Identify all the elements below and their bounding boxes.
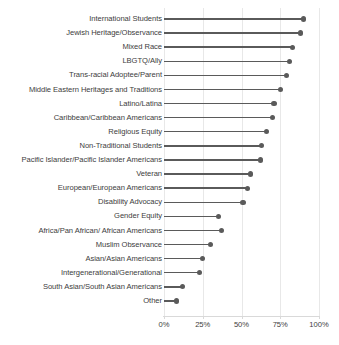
lollipop-marker <box>219 228 224 233</box>
category-label: Pacific Islander/Pacific Islander Americ… <box>21 153 162 167</box>
lollipop-stem <box>164 18 304 19</box>
lollipop-marker <box>271 101 276 106</box>
x-tick-mark <box>280 316 281 319</box>
lollipop-marker <box>174 298 179 303</box>
lollipop-stem <box>164 230 221 231</box>
lollipop-marker <box>284 73 289 78</box>
lollipop-marker <box>248 171 253 176</box>
chart-row: Intergenerational/Generational <box>0 266 339 280</box>
category-label: Gender Equity <box>114 209 162 223</box>
lollipop-marker <box>301 16 306 21</box>
chart-row: LBGTQ/Ally <box>0 54 339 68</box>
chart-row: Trans-racial Adoptee/Parent <box>0 68 339 82</box>
category-label: Veteran <box>136 167 162 181</box>
lollipop-stem <box>164 61 290 62</box>
category-label: Caribbean/Caribbean Americans <box>54 111 162 125</box>
category-label: Disability Advocacy <box>98 195 162 209</box>
x-tick-mark <box>164 316 165 319</box>
lollipop-stem <box>164 103 274 104</box>
lollipop-marker <box>258 157 263 162</box>
chart-row: International Students <box>0 12 339 26</box>
lollipop-marker <box>245 186 250 191</box>
lollipop-stem <box>164 244 211 245</box>
lollipop-stem <box>164 145 262 146</box>
x-tick-mark <box>242 316 243 319</box>
chart-row: Non-Traditional Students <box>0 139 339 153</box>
lollipop-stem <box>164 117 273 118</box>
category-label: Jewish Heritage/Observance <box>66 26 162 40</box>
lollipop-marker <box>264 129 269 134</box>
chart-row: Middle Eastern Heritages and Traditions <box>0 83 339 97</box>
lollipop-stem <box>164 89 280 90</box>
chart-row: European/European Americans <box>0 181 339 195</box>
x-tick-label: 0% <box>159 320 170 329</box>
category-label: European/European Americans <box>58 181 162 195</box>
lollipop-stem <box>164 202 243 203</box>
lollipop-marker <box>208 242 213 247</box>
plot-area: International StudentsJewish Heritage/Ob… <box>0 0 339 345</box>
x-tick-label: 25% <box>195 320 210 329</box>
category-label: Trans-racial Adoptee/Parent <box>69 68 162 82</box>
lollipop-stem <box>164 131 266 132</box>
chart-row: Religious Equity <box>0 125 339 139</box>
lollipop-stem <box>164 187 248 188</box>
x-tick-mark <box>319 316 320 319</box>
category-label: Muslim Observance <box>96 238 162 252</box>
chart-row: South Asian/South Asian Americans <box>0 280 339 294</box>
lollipop-marker <box>180 284 185 289</box>
x-tick-label: 50% <box>234 320 249 329</box>
lollipop-marker <box>270 115 275 120</box>
chart-row: Other <box>0 294 339 308</box>
category-label: Religious Equity <box>108 125 162 139</box>
lollipop-stem <box>164 272 200 273</box>
chart-row: Asian/Asian Americans <box>0 252 339 266</box>
lollipop-stem <box>164 159 260 160</box>
lollipop-marker <box>287 59 292 64</box>
chart-row: Latino/Latina <box>0 97 339 111</box>
category-label: Non-Traditional Students <box>79 139 162 153</box>
x-tick-label: 100% <box>309 320 328 329</box>
category-label: South Asian/South Asian Americans <box>43 280 162 294</box>
lollipop-marker <box>298 30 303 35</box>
category-label: Mixed Race <box>122 40 162 54</box>
category-label: LBGTQ/Ally <box>122 54 162 68</box>
category-label: Middle Eastern Heritages and Traditions <box>29 83 162 97</box>
category-label: Africa/Pan African/ African Americans <box>38 224 162 238</box>
x-tick-label: 75% <box>273 320 288 329</box>
lollipop-stem <box>164 32 300 33</box>
lollipop-stem <box>164 173 251 174</box>
chart-row: Mixed Race <box>0 40 339 54</box>
lollipop-marker <box>290 45 295 50</box>
chart-row: Jewish Heritage/Observance <box>0 26 339 40</box>
lollipop-stem <box>164 46 293 47</box>
lollipop-marker <box>278 87 283 92</box>
category-label: International Students <box>89 12 162 26</box>
lollipop-stem <box>164 216 218 217</box>
chart-row: Muslim Observance <box>0 238 339 252</box>
lollipop-stem <box>164 75 286 76</box>
chart-row: Caribbean/Caribbean Americans <box>0 111 339 125</box>
lollipop-chart: International StudentsJewish Heritage/Ob… <box>0 0 339 345</box>
lollipop-marker <box>200 256 205 261</box>
category-label: Latino/Latina <box>119 97 162 111</box>
x-tick-mark <box>203 316 204 319</box>
lollipop-marker <box>216 214 221 219</box>
chart-row: Veteran <box>0 167 339 181</box>
lollipop-stem <box>164 258 203 259</box>
lollipop-marker <box>240 200 245 205</box>
chart-row: Pacific Islander/Pacific Islander Americ… <box>0 153 339 167</box>
chart-row: Africa/Pan African/ African Americans <box>0 224 339 238</box>
chart-row: Disability Advocacy <box>0 195 339 209</box>
chart-row: Gender Equity <box>0 209 339 223</box>
category-label: Intergenerational/Generational <box>61 266 162 280</box>
lollipop-marker <box>197 270 202 275</box>
lollipop-marker <box>259 143 264 148</box>
category-label: Other <box>143 294 162 308</box>
category-label: Asian/Asian Americans <box>85 252 162 266</box>
